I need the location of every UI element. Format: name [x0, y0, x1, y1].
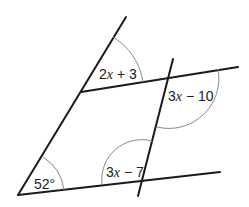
- geometry-diagram: 2x + 3 3x − 10 3x − 7 52°: [0, 0, 249, 207]
- angle-label-3x-minus-10: 3x − 10: [168, 88, 214, 104]
- angle-label-3x-minus-7: 3x − 7: [106, 164, 144, 180]
- angle-label-52-degrees: 52°: [34, 176, 55, 192]
- angle-label-2x-plus-3: 2x + 3: [99, 66, 137, 82]
